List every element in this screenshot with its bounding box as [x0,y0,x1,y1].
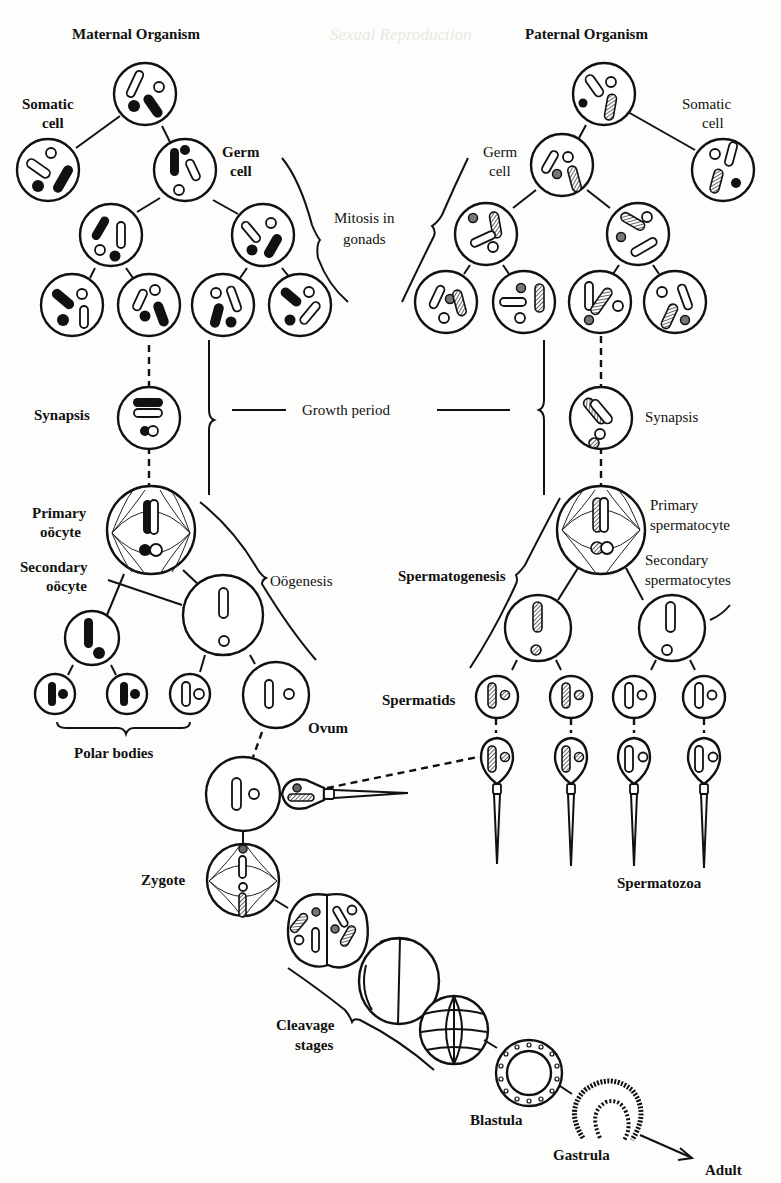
germ-cell-label-right: Germ [483,144,517,160]
spermatid-2 [550,676,592,718]
growth-brace-left [209,340,214,495]
spermatid-connectors [496,718,704,733]
mitosis-label-1: Mitosis in [334,210,395,226]
maternal-mitosis-cell-3 [41,274,103,336]
primary-spermatocyte-label-2: spermatocyte [650,517,730,533]
secondary-oocyte-label-2: oöcyte [46,578,87,594]
somatic-cell-label-left: Somatic [22,96,74,112]
maternal-mitosis-cell-5 [192,274,254,336]
gastrula-label: Gastrula [553,1147,610,1163]
adult-arrow [640,1135,690,1157]
secondary-spermatocyte-1 [505,595,571,661]
paternal-organism-cell [573,63,635,125]
spermatozoa-label: Spermatozoa [617,875,702,891]
paternal-germ-cell [531,134,593,196]
blastula [496,1040,562,1106]
paternal-mitosis-cell-4 [493,271,555,333]
secondary-spermatocyte-2 [639,595,705,661]
maternal-germ-cell [154,139,216,201]
zygote-label: Zygote [141,872,186,888]
secondary-oocyte-pointer [108,580,182,605]
polar-bodies-label: Polar bodies [74,745,153,761]
spermatid-1 [476,676,518,718]
adult-label: Adult [705,1162,742,1178]
secondary-spermatocytes-label: Secondary [645,552,709,568]
spermatozoon-1 [481,738,513,864]
primary-spermatocyte-cell [557,486,645,574]
fertilizing-ovum [206,757,280,831]
spermatid-4 [683,676,725,718]
maternal-synapsis-cell [118,387,180,449]
paternal-title: Paternal Organism [525,26,648,42]
primary-oocyte-label-2: oöcyte [40,524,81,540]
spermatozoon-4 [688,738,720,868]
blastula-label: Blastula [470,1112,523,1128]
zygote-link [275,900,288,908]
mitosis-label-2: gonads [343,231,386,247]
maternal-mitosis-cell-1 [80,204,142,266]
polar-body-1 [35,674,75,714]
paternal-synapsis-cell [570,387,632,449]
maternal-mitosis-cell-6 [269,274,331,336]
morula-stage [420,996,488,1064]
synapsis-label-left: Synapsis [34,407,90,423]
spermatozoon-2 [555,738,587,866]
spermatozoon-3 [618,738,650,866]
primary-oocyte-label: Primary [32,505,87,521]
gastrula [574,1081,641,1140]
primary-spermatocyte-label: Primary [650,497,699,513]
paternal-mitosis-cell-6 [644,271,706,333]
growth-period-label: Growth period [302,402,390,418]
gastrula-link [560,1086,572,1094]
maternal-title: Maternal Organism [72,26,200,42]
secondary-spermatocytes-label-2: spermatocytes [645,572,731,588]
first-polar-body [65,611,119,665]
germ-cell-label-left-2: cell [230,163,252,179]
germ-cell-label-right-2: cell [489,163,511,179]
fertilization-dash [327,757,478,788]
cleavage-label: Cleavage [276,1017,335,1033]
paternal-somatic-cell [692,139,754,201]
primary-oocyte-cell [107,486,195,574]
polar-body-3 [170,674,210,714]
polar-body-2 [107,674,147,714]
somatic-cell-label-left-2: cell [42,115,64,131]
maternal-mitosis-cell-2 [232,204,294,266]
paternal-mitosis-cell-5 [569,271,631,333]
secondary-spermatocyte-arrow [710,605,730,620]
two-cell-stage [288,894,368,967]
germ-cell-label-left: Germ [222,144,260,160]
spermatids-label: Spermatids [382,692,456,708]
spermatid-3 [613,676,655,718]
maternal-mitosis-cell-4 [118,274,180,336]
zygote-cell [207,844,279,917]
somatic-cell-label-right-2: cell [702,115,724,131]
ovum-label: Ovum [308,720,349,736]
secondary-oocyte-cell [183,575,263,655]
maternal-somatic-cell [17,139,79,201]
paternal-mitosis-cell-1 [455,203,517,265]
growth-brace-right [539,340,544,495]
synapsis-label-right: Synapsis [645,409,699,425]
secondary-oocyte-label: Secondary [20,559,88,575]
ghost-header: Sexual Reproduction [330,25,471,44]
somatic-cell-label-right: Somatic [682,96,732,112]
ovum-cell [243,662,309,728]
paternal-mitosis-cell-2 [607,203,669,265]
oogenesis-label: Oögenesis [270,573,333,589]
gametogenesis-diagram: Sexual Reproduction Maternal Organism So… [0,0,781,1183]
paternal-mitosis-cell-3 [415,271,477,333]
cleavage-label-2: stages [295,1037,333,1053]
spermatogenesis-label: Spermatogenesis [398,568,506,584]
polar-bodies-brace [57,722,190,734]
maternal-organism-cell [114,63,176,125]
